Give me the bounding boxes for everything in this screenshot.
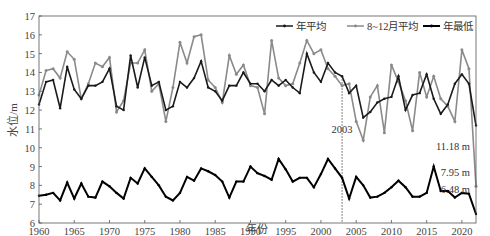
- y-axis-label: 水位/m: [6, 103, 19, 137]
- x-tick-label: 1985: [205, 226, 226, 236]
- water-level-chart: 67891011121314151617 1960196519701975198…: [0, 0, 490, 236]
- x-tick-label: 1995: [275, 226, 296, 236]
- x-tick-label: 1960: [29, 226, 50, 236]
- y-tick-label: 10: [25, 143, 36, 154]
- annotation-label: 6.48 m: [441, 184, 470, 195]
- x-tick-label: 1980: [169, 226, 190, 236]
- y-tick-label: 9: [30, 162, 35, 173]
- x-tick-label: 2000: [310, 226, 331, 236]
- y-tick-label: 15: [25, 49, 36, 60]
- legend-label: 年最低: [443, 20, 474, 32]
- y-tick-label: 7: [30, 199, 35, 210]
- y-tick-label: 17: [25, 11, 36, 22]
- y-tick-label: 11: [25, 124, 35, 135]
- y-tick-label: 14: [25, 67, 36, 78]
- annotation-label: 2003: [332, 124, 353, 135]
- legend-label: 年平均: [296, 20, 326, 32]
- plot-lines: [38, 33, 478, 223]
- y-tick-label: 13: [25, 86, 36, 97]
- x-tick-label: 2005: [346, 226, 367, 236]
- series-line: [39, 35, 476, 186]
- x-tick-label: 2010: [381, 226, 402, 236]
- legend-label: 8~12月平均: [367, 21, 418, 32]
- series-line: [39, 159, 476, 214]
- x-tick-label: 2015: [416, 226, 437, 236]
- annotation-label: 7.95 m: [441, 167, 470, 178]
- x-tick-label: 1975: [134, 226, 155, 236]
- x-axis-label: 年份: [246, 222, 268, 235]
- x-tick-label: 1970: [99, 226, 120, 236]
- y-tick-label: 8: [30, 180, 35, 191]
- x-tick-label: 1965: [64, 226, 85, 236]
- annotation-label: 11.18 m: [436, 141, 470, 152]
- y-tick-label: 12: [25, 105, 36, 116]
- legend: 年平均8~12月平均年最低: [276, 20, 474, 32]
- y-tick-label: 16: [25, 30, 36, 41]
- x-tick-label: 2020: [451, 226, 472, 236]
- annotations: 200311.18 m7.95 m6.48 m: [332, 124, 470, 195]
